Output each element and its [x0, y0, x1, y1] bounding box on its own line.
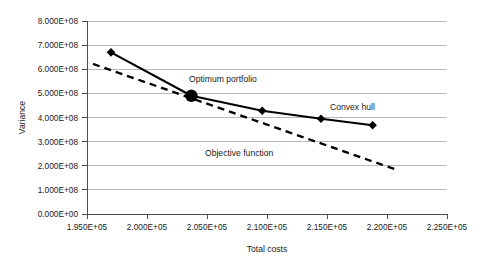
x-tick-label: 2.250E+05 [427, 222, 468, 232]
y-tick-label: 2.000E+08 [38, 161, 79, 171]
optimum-portfolio-marker [185, 90, 197, 102]
y-tick-label: 0.000E+00 [38, 209, 79, 219]
y-tick-label: 7.000E+08 [38, 40, 79, 50]
y-tick-label: 6.000E+08 [38, 64, 79, 74]
annotation-objective-function: Objective function [205, 148, 274, 158]
x-tick-labels: 1.950E+05 2.000E+05 2.050E+05 2.100E+05 … [67, 222, 468, 232]
y-tick-label: 8.000E+08 [38, 16, 79, 26]
chart-container: 8.000E+08 7.000E+08 6.000E+08 5.000E+08 … [0, 0, 489, 269]
y-axis-title: Variance [17, 101, 27, 134]
y-tick-label: 5.000E+08 [38, 88, 79, 98]
y-tick-label: 3.000E+08 [38, 137, 79, 147]
x-tick-label: 2.200E+05 [367, 222, 408, 232]
annotation-convex-hull: Convex hull [330, 102, 375, 112]
x-tick-label: 2.000E+05 [127, 222, 168, 232]
y-tick-label: 4.000E+08 [38, 113, 79, 123]
x-tick-label: 2.050E+05 [187, 222, 228, 232]
x-tick-label: 2.100E+05 [247, 222, 288, 232]
y-tick-marks [82, 21, 87, 214]
x-tick-label: 1.950E+05 [67, 222, 108, 232]
y-tick-label: 1.000E+08 [38, 185, 79, 195]
variance-vs-total-costs-chart: 8.000E+08 7.000E+08 6.000E+08 5.000E+08 … [0, 0, 489, 269]
x-tick-marks [87, 214, 447, 219]
x-tick-label: 2.150E+05 [307, 222, 348, 232]
x-axis-title: Total costs [247, 244, 288, 254]
y-tick-labels: 8.000E+08 7.000E+08 6.000E+08 5.000E+08 … [38, 16, 79, 219]
annotation-optimum-portfolio: Optimum portfolio [189, 74, 257, 84]
